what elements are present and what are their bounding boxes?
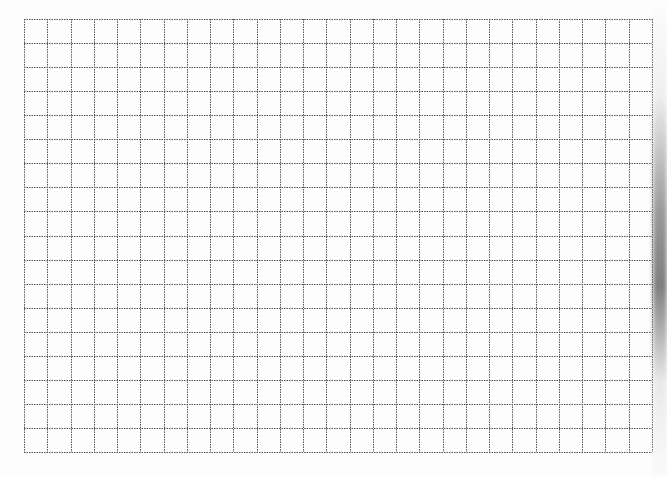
grid-lines <box>0 0 667 477</box>
grid-paper-sheet <box>0 0 667 477</box>
page-edge-shadow <box>653 0 667 477</box>
